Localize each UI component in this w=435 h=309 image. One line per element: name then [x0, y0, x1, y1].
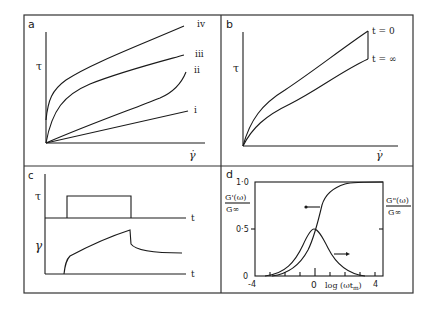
xtick-neg4: -4: [248, 280, 256, 289]
curve-ii-label: ii: [194, 65, 200, 75]
right-ylabel-denominator: G∞: [388, 208, 401, 217]
curve-i-label: i: [194, 105, 197, 115]
panel-c-label: c: [28, 170, 34, 181]
left-ylabel-denominator: G∞: [226, 205, 239, 214]
panel-c-gamma-label: γ: [35, 239, 43, 253]
figure-frame: [24, 15, 413, 293]
x-axis-label: log (ωtm): [325, 281, 362, 291]
right-arrow-head-icon: [346, 252, 350, 256]
panel-c-tau-label: τ: [35, 190, 41, 203]
left-arrow-head-icon: [304, 205, 307, 208]
curve-i: [46, 111, 188, 143]
panel-a-shear-rate-label: γ̇: [189, 149, 196, 162]
curve-iv-label: iv: [197, 19, 206, 29]
rheology-figure: a τ γ̇ iv iii ii i b τ γ̇ t = 0 t = ∞ c: [0, 0, 435, 309]
panel-c-t-label-top: t: [191, 213, 195, 223]
panel-b-label: b: [226, 18, 233, 31]
panel-a-tau-label: τ: [36, 60, 42, 73]
stress-pulse: [67, 196, 131, 218]
panel-b-shear-rate-label: γ̇: [376, 149, 383, 162]
curve-iii-label: iii: [195, 49, 204, 59]
panel-c-t-label-bottom: t: [191, 269, 195, 279]
panel-a: a τ γ̇ iv iii ii i: [28, 18, 206, 162]
curve-ii: [46, 72, 186, 143]
curve-t0: [243, 31, 368, 146]
xtick-0: 0: [311, 280, 317, 290]
xtick-4: 4: [373, 280, 378, 289]
panel-a-label: a: [28, 18, 35, 31]
panel-d-label: d: [226, 168, 233, 181]
panel-b: b τ γ̇ t = 0 t = ∞: [226, 18, 398, 162]
panel-c: c τ t γ t: [28, 170, 195, 279]
tinf-label: t = ∞: [372, 54, 396, 64]
ytick-0-5: 0·5: [236, 225, 249, 234]
curve-iv: [46, 26, 184, 120]
storage-modulus-curve: [272, 182, 383, 276]
creep-recovery-curve: [64, 230, 182, 274]
left-ylabel-numerator: G'(ω): [225, 193, 246, 202]
right-ylabel-numerator: G"(ω): [386, 196, 409, 205]
t0-label: t = 0: [372, 26, 395, 36]
curve-iii: [46, 55, 184, 143]
panel-b-tau-label: τ: [233, 62, 239, 75]
panel-d-plot-box: [255, 182, 383, 276]
panel-d: d 1·0 0·5 0 -4 0 4 log (ωtm) G'(ω) G∞ G"…: [225, 168, 411, 291]
curve-tinf: [243, 59, 368, 146]
ytick-1-0: 1·0: [236, 178, 249, 187]
